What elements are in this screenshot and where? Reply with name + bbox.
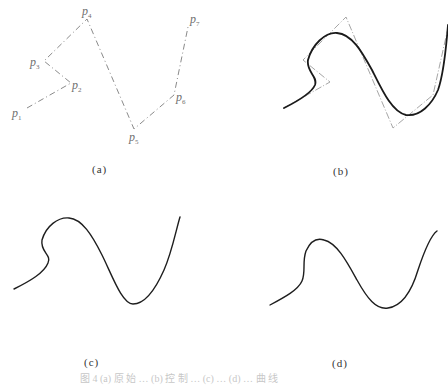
point-label-p7: p7 [190, 12, 200, 28]
point-label-p5: p5 [129, 130, 139, 146]
point-label-p3: p3 [30, 55, 40, 71]
panel-label-c: (c) [84, 356, 99, 368]
point-label-p6: p6 [176, 90, 186, 106]
panel-label-a: (a) [92, 163, 107, 175]
point-label-p4: p4 [82, 4, 92, 20]
panel-b-curve [284, 25, 448, 115]
panel-label-d: (d) [332, 357, 348, 369]
point-label-p1: p1 [12, 106, 22, 122]
panel-a-polygon [27, 19, 188, 129]
figure-caption: 图 4 (a) 原 始 … (b) 控 制 … (c) … (d) … 曲 线 [80, 370, 278, 385]
panel-d-curve [270, 231, 437, 308]
point-label-p2: p2 [72, 78, 82, 94]
panel-b-polygon [284, 17, 448, 128]
panel-label-b: (b) [333, 165, 349, 177]
panel-c-curve [14, 217, 180, 304]
